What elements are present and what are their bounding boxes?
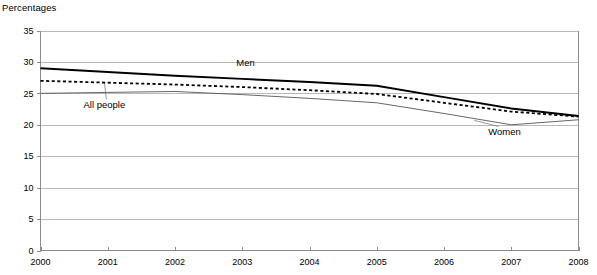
y-tick-label: 30 xyxy=(23,57,33,67)
y-tick-label: 15 xyxy=(23,151,33,161)
x-tick-label: 2008 xyxy=(568,257,588,267)
line-chart: 05101520253035 2000200120022003200420052… xyxy=(0,0,597,275)
y-tick-label: 35 xyxy=(23,26,33,36)
chart-page: Percentages 05101520253035 2000200120022… xyxy=(0,0,597,275)
y-tick-label: 25 xyxy=(23,89,33,99)
series-label-all-people: All people xyxy=(84,99,126,110)
x-axis-tick-labels: 200020012002200320042005200620072008 xyxy=(30,257,588,267)
y-axis-tick-labels: 05101520253035 xyxy=(23,26,33,256)
x-tick-label: 2005 xyxy=(367,257,387,267)
y-tick-label: 0 xyxy=(28,246,33,256)
x-tick-label: 2002 xyxy=(165,257,185,267)
x-tick-label: 2001 xyxy=(98,257,118,267)
x-tick-label: 2000 xyxy=(30,257,50,267)
y-tick-label: 5 xyxy=(28,214,33,224)
x-tick-label: 2006 xyxy=(434,257,454,267)
series-label-men: Men xyxy=(236,57,254,68)
annotation-leader-lines xyxy=(104,82,498,126)
x-tick-label: 2004 xyxy=(299,257,319,267)
series-label-women: Women xyxy=(488,126,521,137)
x-tick-label: 2003 xyxy=(232,257,252,267)
x-tick-label: 2007 xyxy=(501,257,521,267)
y-tick-label: 20 xyxy=(23,120,33,130)
axis-tickmarks xyxy=(37,32,580,252)
y-tick-label: 10 xyxy=(23,183,33,193)
